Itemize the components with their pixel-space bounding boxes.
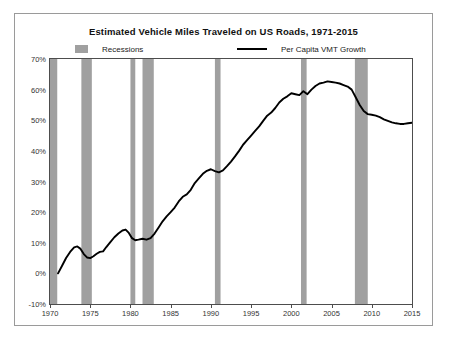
y-tick-label: 0% bbox=[35, 269, 46, 278]
x-tick-label: 2000 bbox=[283, 309, 300, 318]
x-tick-label: 2015 bbox=[404, 309, 421, 318]
plot-canvas bbox=[50, 59, 412, 304]
x-tick-label: 1980 bbox=[122, 309, 139, 318]
plot-area: -10%0%10%20%30%40%50%60%70% 197019751980… bbox=[49, 58, 413, 305]
recession-band bbox=[130, 59, 135, 304]
x-tick-label: 1985 bbox=[162, 309, 179, 318]
y-tick-label: 50% bbox=[31, 116, 46, 125]
x-tick-mark bbox=[372, 304, 373, 308]
recession-band bbox=[81, 59, 91, 304]
x-tick-mark bbox=[251, 304, 252, 308]
x-tick-mark bbox=[211, 304, 212, 308]
chart-figure: Estimated Vehicle Miles Traveled on US R… bbox=[14, 13, 433, 326]
line-swatch-icon bbox=[237, 48, 267, 50]
y-tick-label: 20% bbox=[31, 208, 46, 217]
x-tick-label: 2010 bbox=[363, 309, 380, 318]
legend-label-recessions: Recessions bbox=[102, 45, 143, 54]
x-tick-label: 1995 bbox=[243, 309, 260, 318]
x-tick-label: 2005 bbox=[323, 309, 340, 318]
y-tick-label: 10% bbox=[31, 238, 46, 247]
x-tick-label: 1970 bbox=[42, 309, 59, 318]
x-tick-mark bbox=[412, 304, 413, 308]
x-tick-mark bbox=[50, 304, 51, 308]
recession-band bbox=[301, 59, 307, 304]
legend-item-recessions: Recessions bbox=[75, 42, 143, 56]
chart-title: Estimated Vehicle Miles Traveled on US R… bbox=[15, 26, 432, 37]
x-tick-mark bbox=[130, 304, 131, 308]
y-tick-label: 40% bbox=[31, 146, 46, 155]
recession-band bbox=[355, 59, 368, 304]
y-tick-label: 30% bbox=[31, 177, 46, 186]
legend-label-vmt-growth: Per Capita VMT Growth bbox=[281, 45, 366, 54]
x-tick-mark bbox=[90, 304, 91, 308]
y-tick-label: 60% bbox=[31, 85, 46, 94]
x-tick-label: 1990 bbox=[203, 309, 220, 318]
x-tick-label: 1975 bbox=[82, 309, 99, 318]
x-tick-mark bbox=[332, 304, 333, 308]
recession-band bbox=[215, 59, 221, 304]
chart-legend: Recessions Per Capita VMT Growth bbox=[15, 42, 432, 56]
x-tick-mark bbox=[171, 304, 172, 308]
recession-band bbox=[50, 59, 57, 304]
y-tick-label: -10% bbox=[28, 300, 46, 309]
recession-band bbox=[143, 59, 154, 304]
x-tick-mark bbox=[291, 304, 292, 308]
recession-bands-group bbox=[50, 59, 368, 304]
legend-item-vmt-growth: Per Capita VMT Growth bbox=[237, 42, 366, 56]
y-tick-label: 70% bbox=[31, 55, 46, 64]
recession-swatch-icon bbox=[75, 45, 88, 53]
